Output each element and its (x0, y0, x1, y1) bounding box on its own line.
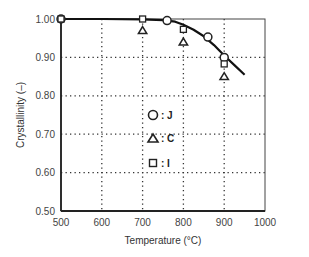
x-tick-label: 800 (175, 217, 192, 228)
point-c-triangle (220, 73, 228, 80)
x-tick-label: 900 (216, 217, 233, 228)
legend: : J : C : I (148, 110, 174, 169)
x-tick-label: 700 (134, 217, 151, 228)
y-tick-labels: 0.500.600.700.800.901.00 (36, 14, 56, 217)
y-tick-label: 0.70 (36, 129, 56, 140)
point-i-square (140, 16, 146, 22)
point-j-circle (204, 33, 212, 41)
fit-curve-line (61, 19, 245, 75)
y-axis-label: Crystallinity (–) (15, 82, 26, 148)
fit-curve (61, 19, 245, 75)
point-i-square (58, 16, 64, 22)
legend-label-i: : I (161, 158, 170, 169)
y-tick-label: 0.60 (36, 167, 56, 178)
point-i-square (221, 61, 227, 67)
legend-item-j: : J (149, 110, 173, 121)
legend-square-marker (150, 160, 157, 167)
x-tick-label: 600 (93, 217, 110, 228)
crystallinity-chart: 5006007008009001000 0.500.600.700.800.90… (0, 0, 309, 257)
legend-item-i: : I (150, 158, 171, 169)
legend-label-c: : C (161, 133, 174, 144)
y-tick-label: 0.90 (36, 52, 56, 63)
y-tick-label: 0.50 (36, 206, 56, 217)
legend-circle-marker (149, 111, 158, 120)
y-tick-label: 0.80 (36, 90, 56, 101)
y-tick-label: 1.00 (36, 14, 56, 25)
point-j-circle (163, 17, 171, 25)
legend-item-c: : C (148, 133, 174, 144)
point-i-square (180, 26, 186, 32)
legend-label-j: : J (161, 110, 173, 121)
point-j-circle (220, 53, 228, 61)
point-c-triangle (138, 27, 146, 34)
x-axis-label: Temperature (°C) (125, 235, 202, 246)
x-tick-label: 500 (53, 217, 70, 228)
x-tick-labels: 5006007008009001000 (53, 217, 277, 228)
point-c-triangle (179, 38, 187, 45)
x-tick-label: 1000 (254, 217, 277, 228)
legend-triangle-marker (148, 134, 158, 142)
